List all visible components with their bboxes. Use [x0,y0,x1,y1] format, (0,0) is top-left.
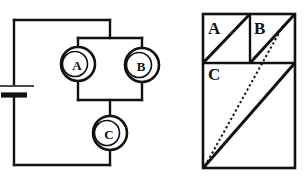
region-diagram-panel: A B C [190,0,305,185]
meter-a: A [61,47,95,81]
figure-root: A B C A B C [0,0,305,185]
region-cell-c-label: C [208,65,220,84]
circuit-diagram-panel: A B C [0,0,190,185]
region-cell-b-label: B [254,19,265,38]
region-cell-a-label: A [208,19,221,38]
circuit-panel-background [0,0,190,185]
meter-c: C [93,116,127,150]
meter-a-label: A [72,58,82,73]
meter-b: B [125,48,159,82]
meter-c-label: C [104,127,113,142]
meter-b-label: B [137,59,146,74]
